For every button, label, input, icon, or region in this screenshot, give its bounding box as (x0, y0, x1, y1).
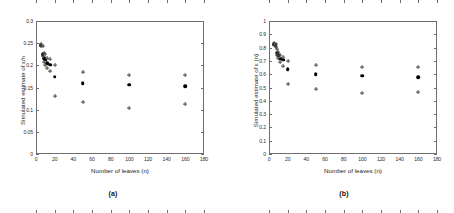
y-axis-tick (434, 154, 437, 155)
y-axis-tick-label: 0.8 (259, 45, 266, 51)
y-axis-tick-label: 0.1 (26, 107, 33, 113)
y-axis-tick (434, 21, 437, 22)
y-axis-tick (434, 88, 437, 89)
y-axis-tick (201, 154, 204, 155)
x-axis-tick-label: 180 (433, 156, 441, 162)
x-axis-tick (325, 0, 326, 3)
x-axis-tick (129, 0, 130, 3)
y-axis-tick (434, 101, 437, 102)
x-axis-tick (400, 0, 401, 3)
data-point-bound (39, 44, 43, 48)
x-axis-tick-label: 0 (268, 156, 271, 162)
x-axis-tick-label: 40 (71, 156, 76, 162)
y-axis-tick (201, 43, 204, 44)
data-point-mean (417, 75, 421, 79)
x-axis-tick (362, 210, 363, 213)
y-axis-tick-label: 0.3 (259, 111, 266, 117)
data-point-bound (127, 73, 131, 77)
y-axis-tick-label: 0.7 (259, 58, 266, 64)
x-axis-tick-label: 20 (52, 156, 57, 162)
y-axis-tick (434, 74, 437, 75)
x-axis-tick (418, 0, 419, 3)
y-axis-tick (269, 101, 272, 102)
y-axis-tick (36, 21, 39, 22)
x-axis-tick-label: 100 (358, 156, 366, 162)
x-axis-tick (362, 0, 363, 3)
x-axis-tick (381, 210, 382, 213)
y-axis-tick (269, 48, 272, 49)
y-axis-tick-label: 0.9 (259, 31, 266, 37)
x-axis-tick-label: 100 (125, 156, 133, 162)
data-point-bound (48, 69, 52, 73)
y-axis-tick (269, 61, 272, 62)
data-point-bound (416, 65, 420, 69)
y-axis-tick-label: 0.05 (23, 129, 33, 135)
x-axis-tick (36, 210, 37, 213)
data-point-bound (53, 94, 57, 98)
data-point-bound (127, 106, 131, 110)
x-axis-tick (437, 0, 438, 3)
x-axis-tick-label: 0 (35, 156, 38, 162)
x-axis-tick (185, 0, 186, 3)
y-axis-tick (36, 154, 39, 155)
plot-area-a (36, 21, 204, 154)
data-point-mean (286, 67, 290, 71)
data-point-mean (314, 73, 318, 77)
x-axis-tick (111, 0, 112, 3)
y-axis-tick (36, 88, 39, 89)
x-axis-tick (269, 210, 270, 213)
x-axis-tick (185, 210, 186, 213)
x-axis-tick-label: 160 (181, 156, 189, 162)
y-axis-tick (269, 154, 272, 155)
y-axis-tick-label: 0.2 (26, 62, 33, 68)
y-axis-tick (36, 110, 39, 111)
x-axis-tick (418, 210, 419, 213)
data-point-bound (281, 55, 285, 59)
x-axis-tick (400, 210, 401, 213)
x-axis-tick (325, 210, 326, 213)
x-axis-tick (288, 210, 289, 213)
y-axis-tick (201, 21, 204, 22)
figure-container: Number of leaves (n) Simulated estimate … (0, 0, 454, 213)
subfigure-caption-a: (a) (108, 190, 117, 197)
data-point-mean (361, 74, 365, 78)
y-axis-tick (269, 74, 272, 75)
x-axis-tick-label: 180 (200, 156, 208, 162)
y-axis-tick (201, 65, 204, 66)
data-point-bound (416, 90, 420, 94)
y-axis-tick (36, 65, 39, 66)
x-axis-tick (92, 210, 93, 213)
y-axis-tick (269, 127, 272, 128)
x-axis-tick (381, 0, 382, 3)
data-point-bound (53, 63, 57, 67)
x-axis-tick-label: 120 (377, 156, 385, 162)
x-axis-tick (55, 210, 56, 213)
data-point-bound (314, 63, 318, 67)
x-axis-tick (437, 210, 438, 213)
y-axis-tick (434, 141, 437, 142)
x-axis-tick-label: 80 (108, 156, 113, 162)
x-axis-tick (269, 0, 270, 3)
y-axis-tick-label: 0 (30, 151, 33, 157)
data-point-mean (128, 83, 132, 87)
x-axis-tick-label: 120 (144, 156, 152, 162)
y-axis-tick (434, 34, 437, 35)
x-axis-tick (204, 0, 205, 3)
y-axis-tick (269, 88, 272, 89)
y-axis-tick (201, 110, 204, 111)
data-point-bound (274, 45, 278, 49)
y-axis-tick (201, 132, 204, 133)
x-axis-tick-label: 80 (341, 156, 346, 162)
data-point-bound (278, 60, 282, 64)
data-point-mean (81, 81, 85, 85)
panel-a: Number of leaves (n) Simulated estimate … (0, 0, 227, 213)
data-point-bound (360, 65, 364, 69)
y-axis-tick (269, 114, 272, 115)
x-axis-tick-label: 140 (396, 156, 404, 162)
data-point-bound (286, 82, 290, 86)
y-axis-tick (434, 48, 437, 49)
x-axis-tick (204, 210, 205, 213)
data-point-bound (286, 59, 290, 63)
x-axis-tick-label: 160 (414, 156, 422, 162)
panel-b: Number of leaves (n) Simulated estimate … (227, 0, 454, 213)
